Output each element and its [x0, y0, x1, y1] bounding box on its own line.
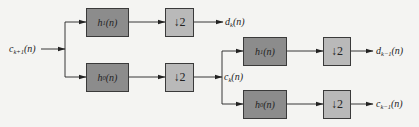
h1-filter-stage1-label: h1(n) — [86, 8, 129, 37]
downsample-high-stage1-label: ↓2 — [165, 8, 194, 37]
h0-filter-stage1-label: h0(n) — [86, 63, 129, 92]
downsample-low-stage1-label: ↓2 — [165, 63, 194, 92]
detail-output-dk-1: dk−1(n) — [376, 46, 403, 58]
approx-output-ck-1: ck−1(n) — [376, 99, 403, 111]
detail-output-dk: dk(n) — [225, 17, 245, 29]
input-label: ck+1(n) — [9, 44, 36, 56]
filter-bank-diagram — [0, 0, 419, 127]
downsample-low-stage2-label: ↓2 — [323, 90, 351, 119]
h1-filter-stage2-label: h1(n) — [243, 37, 287, 66]
h0-filter-stage2-label: h0(n) — [243, 90, 287, 119]
downsample-high-stage2-label: ↓2 — [323, 37, 351, 66]
approx-output-ck: ck(n) — [224, 72, 243, 84]
